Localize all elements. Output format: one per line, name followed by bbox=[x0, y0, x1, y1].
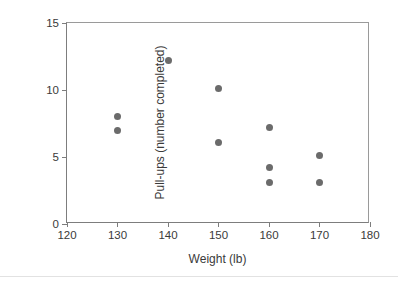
x-tick-label-120: 120 bbox=[57, 229, 76, 242]
x-tick-label-170: 170 bbox=[310, 229, 329, 242]
y-tick-label-5: 5 bbox=[53, 151, 59, 164]
data-point bbox=[266, 179, 273, 186]
scatter-plot-figure: 120130140150160170180 051015 Weight (lb)… bbox=[0, 0, 398, 288]
x-tick-150 bbox=[218, 222, 219, 227]
x-axis-title: Weight (lb) bbox=[66, 252, 369, 266]
y-tick-0 bbox=[62, 224, 67, 225]
x-tick-label-130: 130 bbox=[108, 229, 127, 242]
x-tick-160 bbox=[269, 222, 270, 227]
data-point bbox=[266, 124, 273, 131]
data-point bbox=[215, 85, 222, 92]
data-point bbox=[316, 152, 323, 159]
x-tick-label-180: 180 bbox=[360, 229, 379, 242]
x-tick-130 bbox=[117, 222, 118, 227]
data-point bbox=[266, 164, 273, 171]
data-point bbox=[316, 179, 323, 186]
y-tick-15 bbox=[62, 23, 67, 24]
x-tick-label-150: 150 bbox=[209, 229, 228, 242]
y-tick-10 bbox=[62, 90, 67, 91]
x-tick-170 bbox=[319, 222, 320, 227]
x-tick-label-140: 140 bbox=[158, 229, 177, 242]
y-tick-label-15: 15 bbox=[46, 17, 59, 30]
y-tick-5 bbox=[62, 157, 67, 158]
bottom-divider bbox=[0, 276, 398, 277]
x-tick-180 bbox=[370, 222, 371, 227]
y-tick-label-0: 0 bbox=[53, 218, 59, 231]
y-axis-title: Pull-ups (number completed) bbox=[149, 22, 171, 223]
y-tick-label-10: 10 bbox=[46, 84, 59, 97]
data-point bbox=[114, 127, 121, 134]
data-point bbox=[114, 113, 121, 120]
plot-area: 120130140150160170180 051015 bbox=[66, 22, 369, 223]
data-point bbox=[215, 139, 222, 146]
x-tick-label-160: 160 bbox=[259, 229, 278, 242]
